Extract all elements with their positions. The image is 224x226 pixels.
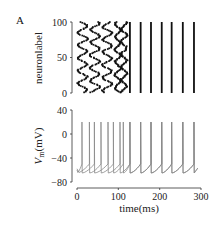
vm-ytick-40: 40 [57, 105, 67, 116]
raster-plot: 100 50 0 neuronlabel [32, 17, 195, 99]
raster-ytick-50: 50 [57, 52, 67, 63]
vm-ytick-minus80: −80 [51, 177, 67, 188]
raster-spikes [76, 21, 194, 93]
figure: 100 50 0 neuronlabel 40 0 −40 −80 Vm(mV)… [0, 0, 224, 226]
vm-ytick-minus40: −40 [51, 153, 67, 164]
raster-ytick-0: 0 [62, 88, 67, 99]
vm-ylabel: Vm(mV) [32, 127, 46, 164]
vm-plot: 40 0 −40 −80 Vm(mV) 0 100 200 300 time(m… [32, 105, 209, 215]
raster-ylabel: neuronlabel [32, 32, 44, 84]
xlabel: time(ms) [119, 202, 159, 215]
xtick-300: 300 [194, 191, 209, 202]
xtick-100: 100 [111, 191, 126, 202]
raster-ytick-100: 100 [52, 17, 67, 28]
xtick-0: 0 [75, 191, 80, 202]
vm-ytick-0: 0 [62, 129, 67, 140]
xtick-200: 200 [152, 191, 167, 202]
vm-traces [77, 122, 198, 173]
